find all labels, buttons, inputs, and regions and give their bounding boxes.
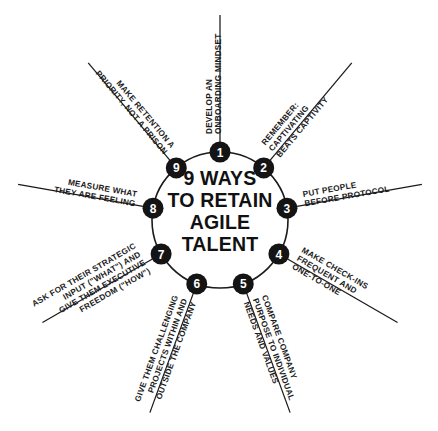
node-number-7: 7: [158, 248, 165, 262]
item-label-3: PUT PEOPLEBEFORE PROTOCOL: [302, 175, 390, 208]
item-label-1-line-1: DEVELOP AN: [205, 79, 214, 134]
item-label-6: GIVE THEM CHALLENGINGPROJECTS WITHIN AND…: [133, 294, 198, 410]
center-title: 9 WAYSTO RETAINAGILETALENT: [167, 167, 272, 255]
item-label-9: MAKE RETENTION APRIORITY, NOT A PRISON: [94, 63, 177, 156]
item-label-9-line-1: MAKE RETENTION A: [115, 79, 177, 150]
node-number-5: 5: [240, 277, 247, 291]
item-label-4: MAKE CHECK-INSFREQUENT ANDONE-TO-ONE: [290, 246, 370, 308]
infographic-canvas: 9 WAYSTO RETAINAGILETALENT 123456789 DEV…: [0, 0, 438, 431]
node-number-9: 9: [173, 161, 180, 175]
node-number-4: 4: [276, 248, 283, 262]
item-label-1-line-2: ONBOARDING MINDSET: [214, 34, 223, 134]
title-line-3: AGILE: [190, 211, 251, 233]
item-label-8: MEASURE WHATTHEY ARE FEELING: [53, 176, 138, 209]
title-line-2: TO RETAIN: [167, 189, 272, 211]
item-label-1: DEVELOP ANONBOARDING MINDSET: [205, 34, 224, 134]
item-label-5: COMPARE COMPANYPURPOSE TO INDIVIDUALNEED…: [242, 294, 305, 405]
title-line-1: 9 WAYS: [183, 167, 256, 189]
node-number-1: 1: [217, 146, 224, 160]
title-line-4: TALENT: [182, 233, 259, 255]
retention-infographic: 9 WAYSTO RETAINAGILETALENT 123456789 DEV…: [0, 0, 438, 431]
node-number-3: 3: [284, 202, 291, 216]
item-label-9-line-2: PRIORITY, NOT A PRISON: [94, 69, 169, 156]
node-number-6: 6: [193, 277, 200, 291]
item-label-2: REMEMBER:CAPTIVATINGBEATS CAPTIVITY: [260, 83, 331, 160]
node-number-2: 2: [260, 161, 267, 175]
node-number-8: 8: [150, 202, 157, 216]
